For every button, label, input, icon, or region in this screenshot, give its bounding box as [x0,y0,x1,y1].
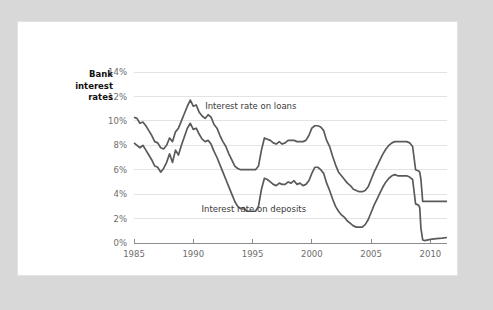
chart-svg: 0%2%4%6%8%10%12%14%198519901995200020052… [18,22,457,275]
y-axis-tick-label: 8% [114,140,128,150]
y-axis-tick-label: 10% [108,116,127,126]
chart-card: 0%2%4%6%8%10%12%14%198519901995200020052… [18,22,457,275]
x-axis-tick-label: 2005 [360,249,382,259]
x-axis-tick-label: 1985 [123,249,145,259]
series-annotation-loans: Interest rate on loans [205,101,297,111]
chart-title-line: rates [88,92,113,102]
y-axis-tick-label: 2% [114,214,128,224]
x-axis-tick-label: 2010 [420,249,442,259]
x-axis-tick-label: 1990 [182,249,204,259]
series-annotation-deposits: Interest rate on deposits [202,204,307,214]
chart-title: Bankinterestrates [75,69,113,102]
bank-interest-rates-chart: 0%2%4%6%8%10%12%14%198519901995200020052… [18,22,457,275]
x-axis-tick-label: 2000 [301,249,323,259]
y-axis-tick-label: 4% [114,189,128,199]
x-axis-tick-label: 1995 [242,249,264,259]
y-axis-tick-label: 0% [114,238,128,248]
page-background: 0%2%4%6%8%10%12%14%198519901995200020052… [0,0,493,310]
chart-title-line: interest [75,81,113,91]
series-line-loans [134,100,447,201]
chart-title-line: Bank [89,69,113,79]
y-axis-tick-label: 6% [114,165,128,175]
